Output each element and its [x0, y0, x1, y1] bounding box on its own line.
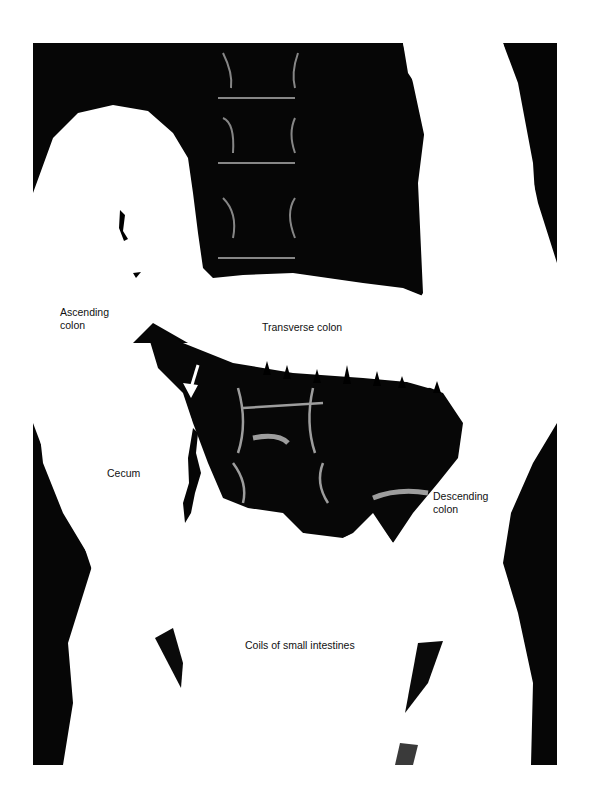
label-small-intestines: Coils of small intestines	[245, 639, 355, 652]
xray-figure: Ascending colon Transverse colon Cecum D…	[33, 43, 557, 765]
label-ascending-colon: Ascending colon	[60, 306, 109, 332]
label-transverse-colon: Transverse colon	[262, 321, 342, 334]
label-descending-colon: Descending colon	[433, 490, 488, 516]
radiograph-image	[33, 43, 557, 765]
label-cecum: Cecum	[107, 467, 140, 480]
